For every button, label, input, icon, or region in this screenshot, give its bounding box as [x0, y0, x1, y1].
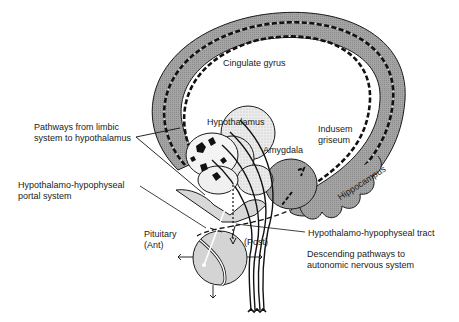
label-indusem-griseum-2: griseum: [318, 135, 350, 146]
label-descending-2: autonomic nervous system: [307, 260, 414, 271]
label-posterior: (Post): [244, 237, 268, 248]
label-pituitary-2: (Ant): [144, 240, 164, 251]
label-tract: Hypothalamo-hypophyseal tract: [308, 228, 435, 239]
label-amygdala: Amygdala: [263, 145, 303, 156]
label-pathways-1: Pathways from limbic: [34, 122, 119, 133]
label-portal-2: portal system: [18, 191, 72, 202]
label-descending-1: Descending pathways to: [307, 249, 405, 260]
label-cingulate-gyrus: Cingulate gyrus: [223, 58, 286, 69]
label-portal-1: Hypothalamo-hypophyseal: [18, 180, 125, 191]
label-pathways-2: system to hypothalamus: [34, 133, 131, 144]
label-hypothalamus: Hypothalamus: [207, 117, 265, 128]
limbic-diagram: [0, 0, 459, 322]
label-pituitary-1: Pituitary: [144, 229, 177, 240]
label-indusem-griseum-1: Indusem: [318, 124, 353, 135]
